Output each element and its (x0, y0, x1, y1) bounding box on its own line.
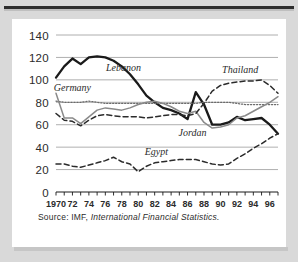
y-axis-label-100: 100 (29, 74, 49, 86)
series-label-jordan: Jordan (179, 127, 207, 138)
x-axis-label-94: 94 (248, 199, 258, 209)
x-axis-label-84: 84 (166, 199, 176, 209)
x-axis-label-88: 88 (199, 199, 209, 209)
top-rule-shadow (4, 9, 294, 11)
series-label-egypt: Egypt (144, 146, 169, 157)
y-axis-label-140: 140 (29, 30, 49, 42)
series-line-germany (56, 101, 278, 104)
series-label-germany: Germany (54, 82, 92, 93)
x-axis-label-82: 82 (150, 199, 160, 209)
x-axis-label-86: 86 (183, 199, 193, 209)
y-axis-label-40: 40 (36, 142, 49, 154)
series-line-jordan (56, 93, 278, 128)
x-axis-label-80: 80 (133, 199, 143, 209)
source-publication: International Financial Statistics. (91, 212, 220, 222)
x-axis-label-1970: 1970 (46, 199, 66, 209)
series-label-thailand: Thailand (222, 64, 259, 75)
x-axis-label-92: 92 (232, 199, 242, 209)
y-axis-label-60: 60 (36, 119, 49, 131)
card-shadow (14, 247, 288, 251)
y-axis-label-0: 0 (42, 187, 49, 199)
x-axis-label-96: 96 (265, 199, 275, 209)
x-axis-label-90: 90 (215, 199, 225, 209)
figure-card: 0204060801001201401970727476788082848688… (12, 19, 286, 247)
x-axis-label-76: 76 (100, 199, 110, 209)
series-label-lebanon: Lebanon (105, 62, 141, 73)
source-note: Source: IMF, International Financial Sta… (38, 212, 220, 222)
figure-page: 0204060801001201401970727476788082848688… (0, 0, 298, 262)
y-axis-label-120: 120 (29, 52, 49, 64)
x-axis-label-74: 74 (84, 199, 94, 209)
x-axis-label-72: 72 (67, 199, 77, 209)
source-prefix: Source: IMF, (38, 212, 88, 222)
x-axis-label-78: 78 (117, 199, 127, 209)
y-axis-label-20: 20 (36, 164, 49, 176)
y-axis-label-80: 80 (36, 97, 49, 109)
